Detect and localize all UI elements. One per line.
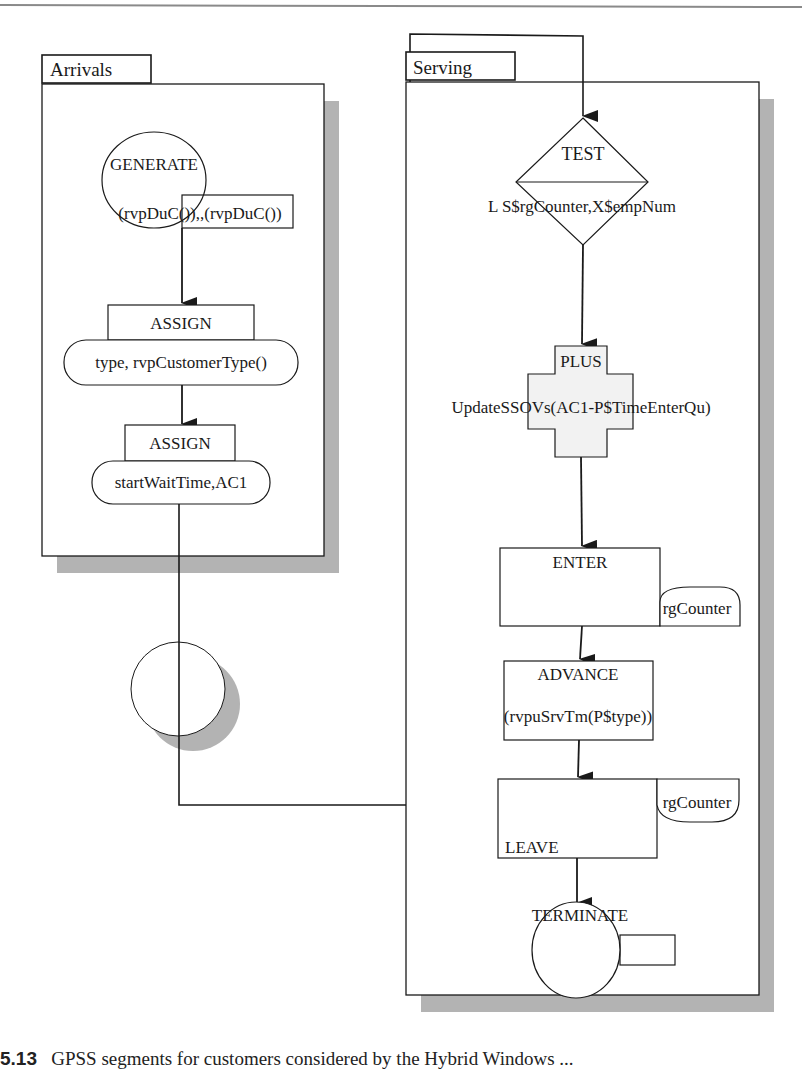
figure-number: 5.13 [0,1048,37,1069]
top-rule [0,5,802,7]
leave-operand: rgCounter [663,793,732,812]
generate-label: GENERATE [110,155,198,174]
generate-operand: (rvpDuC()),,(rvpDuC()) [118,204,281,223]
segment-serving[interactable]: Serving TEST L S$rgCounter,X$empNum PLUS… [406,52,774,1012]
leave-label: LEAVE [505,838,559,857]
test-operand: L S$rgCounter,X$empNum [488,197,676,216]
serving-tab-label: Serving [413,57,473,78]
advance-operand: (rvpuSrvTm(P$type)) [504,707,652,726]
arrow-advance-to-leave [578,740,579,777]
assign2-label: ASSIGN [149,434,210,453]
segment-arrivals[interactable]: Arrivals GENERATE (rvpDuC()),,(rvpDuC())… [42,55,339,573]
advance-label: ADVANCE [538,665,619,684]
plus-operand: UpdateSSOVs(AC1-P$TimeEnterQu) [451,398,710,417]
enter-label: ENTER [553,553,608,572]
assign1-label: ASSIGN [150,314,211,333]
arrivals-tab-label: Arrivals [50,59,112,80]
figure-caption-text: GPSS segments for customers considered b… [51,1048,573,1069]
connector-block[interactable] [131,642,240,751]
arrow-test-to-plus [582,245,583,344]
terminate-operand-box [620,935,675,965]
enter-operand: rgCounter [663,599,732,618]
assign2-operand: startWaitTime,AC1 [115,473,248,492]
arrow-plus-to-enter [581,457,582,546]
test-label: TEST [562,144,605,164]
figure-caption: 5.13 GPSS segments for customers conside… [0,1048,802,1073]
advance-block[interactable]: ADVANCE (rvpuSrvTm(P$type)) [504,661,653,740]
connector-circle-icon [131,642,225,736]
plus-label: PLUS [560,352,602,371]
terminate-label: TERMINATE [532,906,628,925]
assign1-operand: type, rvpCustomerType() [95,353,267,372]
